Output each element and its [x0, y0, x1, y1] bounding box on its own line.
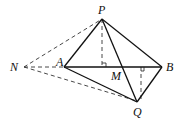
segment-PA	[64, 19, 102, 67]
geometry-diagram: P N A B M Q	[0, 0, 184, 128]
label-A: A	[55, 55, 64, 69]
segment-PQ	[102, 19, 137, 102]
label-M: M	[110, 69, 122, 83]
label-B: B	[166, 60, 174, 74]
label-N: N	[9, 60, 19, 74]
segment-AQ	[64, 67, 137, 102]
label-Q: Q	[133, 105, 142, 119]
segment-PB	[102, 19, 162, 67]
label-P: P	[97, 3, 106, 17]
